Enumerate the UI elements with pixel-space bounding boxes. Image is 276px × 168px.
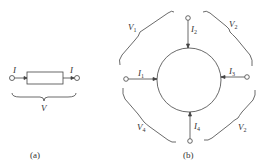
- label-v1: V1: [128, 22, 137, 33]
- terminal-left: [10, 76, 15, 81]
- label-current-right: I: [69, 65, 74, 75]
- arrow-left-b: [153, 78, 157, 81]
- resistor: [27, 72, 63, 84]
- label-v2-bottom: V2: [238, 122, 247, 133]
- arrow-right-b: [221, 76, 225, 79]
- label-voltage: V: [41, 103, 48, 113]
- caption-a: (a): [30, 150, 40, 160]
- label-i1: I1: [137, 68, 144, 79]
- network-circle: [157, 48, 221, 112]
- label-v2-top: V2: [229, 19, 238, 30]
- brace-v1: [119, 11, 174, 65]
- terminal-left-b: [124, 77, 129, 82]
- arrow-left: [24, 77, 27, 80]
- voltage-brace: [12, 93, 76, 101]
- label-i3: I3: [228, 66, 235, 77]
- label-i2: I2: [190, 24, 197, 35]
- terminal-bottom: [188, 139, 193, 144]
- figure-b-labels: V1 I2 V2 I1 I3 V4 I4 V2: [128, 19, 247, 133]
- diagram-canvas: I I V (a) V1 I2 V2 I1 I3 V4 I4 V2: [0, 0, 276, 168]
- caption-b: (b): [183, 150, 194, 160]
- terminal-top: [186, 16, 191, 21]
- arrow-bottom: [189, 112, 192, 116]
- figure-a: [10, 72, 80, 101]
- brace-v2-top: [203, 11, 252, 66]
- label-v4: V4: [137, 122, 146, 133]
- arrow-top: [187, 44, 190, 48]
- terminal-right: [75, 76, 80, 81]
- brace-v4: [123, 88, 176, 142]
- terminal-right-b: [245, 75, 250, 80]
- label-current-left: I: [12, 65, 17, 75]
- brace-v2-bottom: [204, 90, 255, 140]
- label-i4: I4: [193, 121, 200, 132]
- arrow-right: [71, 77, 74, 80]
